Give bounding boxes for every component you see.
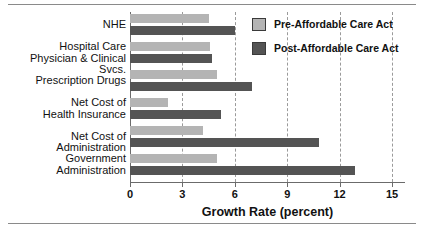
x-tick-12 xyxy=(340,182,341,187)
legend-item-post[interactable]: Post-Affordable Care Act xyxy=(252,38,398,58)
chart-figure: NHEHospital CarePhysician & Clinical Svc… xyxy=(0,0,424,230)
legend-item-pre[interactable]: Pre-Affordable Care Act xyxy=(252,14,398,34)
x-tick-label-0: 0 xyxy=(127,188,133,200)
bar-post-0 xyxy=(130,26,235,35)
legend-swatch-post-icon xyxy=(252,42,266,55)
category-label-line: Physician & Clinical Svcs. xyxy=(2,53,126,76)
x-tick-6 xyxy=(235,182,236,187)
category-label-line: Hospital Care xyxy=(2,41,126,53)
x-tick-label-3: 3 xyxy=(179,188,185,200)
category-label-line: Prescription Drugs xyxy=(2,75,126,87)
bar-post-4 xyxy=(130,138,319,147)
bar-pre-5 xyxy=(130,154,217,163)
legend-label-pre: Pre-Affordable Care Act xyxy=(274,18,393,30)
category-label-1: Hospital CarePhysician & Clinical Svcs. xyxy=(2,41,126,76)
chart-legend: Pre-Affordable Care ActPost-Affordable C… xyxy=(252,14,398,62)
x-tick-9 xyxy=(287,182,288,187)
bar-pre-3 xyxy=(130,98,168,107)
x-axis-line xyxy=(130,182,405,183)
x-tick-label-6: 6 xyxy=(232,188,238,200)
x-tick-3 xyxy=(182,182,183,187)
x-tick-label-12: 12 xyxy=(333,188,345,200)
bar-post-3 xyxy=(130,110,221,119)
x-tick-label-15: 15 xyxy=(386,188,398,200)
x-tick-0 xyxy=(130,182,131,187)
category-label-line: NHE xyxy=(2,19,126,31)
category-label-4: Net Cost of Administration xyxy=(2,131,126,154)
category-axis-labels: NHEHospital CarePhysician & Clinical Svc… xyxy=(0,0,126,230)
category-label-line: Health Insurance xyxy=(2,109,126,121)
category-label-5: GovernmentAdministration xyxy=(2,153,126,176)
category-label-line: Net Cost of xyxy=(2,97,126,109)
x-axis-title: Growth Rate (percent) xyxy=(130,205,405,219)
bar-pre-4 xyxy=(130,126,203,135)
legend-label-post: Post-Affordable Care Act xyxy=(274,42,398,54)
bar-post-5 xyxy=(130,166,355,175)
bar-pre-0 xyxy=(130,14,209,23)
category-label-2: Prescription Drugs xyxy=(2,75,126,87)
bar-pre-2 xyxy=(130,70,217,79)
category-label-line: Government xyxy=(2,153,126,165)
bar-post-1 xyxy=(130,54,212,63)
category-label-line: Net Cost of Administration xyxy=(2,131,126,154)
gridline-6 xyxy=(235,12,236,182)
x-tick-label-9: 9 xyxy=(284,188,290,200)
bar-post-2 xyxy=(130,82,252,91)
bar-pre-1 xyxy=(130,42,210,51)
x-tick-15 xyxy=(392,182,393,187)
legend-swatch-pre-icon xyxy=(252,18,266,31)
category-label-line: Administration xyxy=(2,165,126,177)
category-label-0: NHE xyxy=(2,19,126,31)
category-label-3: Net Cost ofHealth Insurance xyxy=(2,97,126,120)
